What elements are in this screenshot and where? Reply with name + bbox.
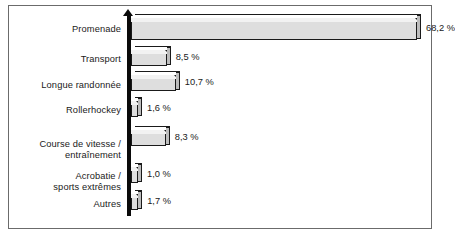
- bar-category-label: Rollerhockey: [66, 105, 121, 116]
- bar-side-face: [138, 98, 142, 116]
- bar[interactable]: [131, 167, 138, 183]
- bar[interactable]: [131, 130, 166, 146]
- bar-side-face: [138, 191, 142, 209]
- bar-category-label: Longue randonnée: [41, 80, 121, 91]
- bar-category-label: Acrobatie / sports extrêmes: [53, 171, 121, 192]
- bar-value-label: 8,3 %: [175, 132, 199, 143]
- bar[interactable]: [131, 194, 138, 210]
- bar-value-label: 8,5 %: [176, 52, 200, 63]
- bar-top-face: [131, 75, 178, 79]
- bar-top-face: [131, 130, 168, 134]
- bar-side-face: [417, 15, 421, 39]
- bar-top-edge: [135, 14, 421, 18]
- bar-side-face: [167, 47, 171, 65]
- bar[interactable]: [131, 101, 138, 117]
- bar[interactable]: [131, 18, 417, 40]
- bar-top-edge: [135, 126, 170, 130]
- bar-category-label: Autres: [94, 199, 121, 210]
- bar-top-face: [131, 50, 169, 54]
- bar-top-face: [131, 18, 419, 22]
- bar-category-label: Course de vitesse / entraînement: [40, 139, 121, 160]
- bar-chart-plot: Promenade68,2 %Transport8,5 %Longue rand…: [9, 6, 431, 228]
- bar-top-edge: [135, 46, 171, 50]
- bar-value-label: 68,2 %: [426, 23, 455, 34]
- bar-top-edge: [135, 71, 180, 75]
- bar-value-label: 1,6 %: [147, 103, 171, 114]
- bar-side-face: [176, 72, 180, 90]
- bar-category-label: Transport: [81, 54, 121, 65]
- bar-side-face: [138, 164, 142, 182]
- bar-value-label: 1,7 %: [147, 196, 171, 207]
- bar[interactable]: [131, 50, 167, 66]
- bar-value-label: 1,0 %: [147, 169, 171, 180]
- bar[interactable]: [131, 75, 176, 91]
- chart-frame: Promenade68,2 %Transport8,5 %Longue rand…: [8, 5, 432, 229]
- bar-value-label: 10,7 %: [185, 77, 214, 88]
- bar-side-face: [166, 127, 170, 145]
- bar-category-label: Promenade: [72, 24, 121, 35]
